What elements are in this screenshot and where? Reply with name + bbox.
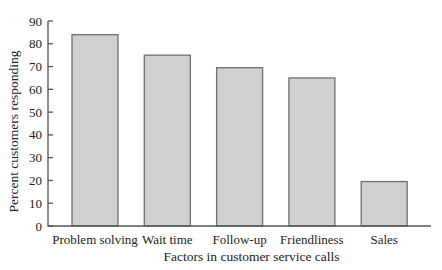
y-tick-label: 40 [29, 127, 42, 142]
x-axis-tick-labels: Problem solvingWait timeFollow-upFriendl… [52, 232, 398, 247]
y-tick-label: 50 [29, 105, 42, 120]
y-tick-label: 10 [29, 196, 42, 211]
x-tick-label: Problem solving [52, 232, 138, 247]
y-tick-label: 60 [29, 82, 42, 97]
y-tick-label: 30 [29, 150, 42, 165]
x-tick-label: Wait time [142, 232, 193, 247]
y-tick-label: 90 [29, 14, 42, 29]
y-tick-label: 0 [36, 219, 43, 234]
bar-sales [361, 182, 407, 226]
y-axis-ticks: 0102030405060708090 [29, 14, 53, 234]
bar-chart: 0102030405060708090 Problem solvingWait … [0, 0, 442, 270]
y-axis-title: Percent customers responding [6, 50, 21, 212]
bar-problem-solving [72, 35, 118, 226]
x-tick-label: Follow-up [213, 232, 267, 247]
x-axis-title: Factors in customer service calls [163, 249, 339, 264]
bar-friendliness [289, 78, 335, 226]
bar-wait-time [144, 55, 190, 226]
y-tick-label: 70 [29, 59, 42, 74]
x-tick-label: Sales [370, 232, 397, 247]
y-tick-label: 80 [29, 36, 42, 51]
bars [72, 35, 407, 226]
y-tick-label: 20 [29, 173, 42, 188]
x-tick-label: Friendliness [280, 232, 344, 247]
bar-follow-up [217, 68, 263, 226]
